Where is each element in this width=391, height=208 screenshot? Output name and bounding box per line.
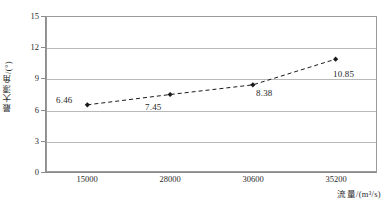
x-tick-label: 30600 — [242, 175, 263, 184]
point-value-label: 6.46 — [56, 96, 73, 105]
x-tick-label: 35200 — [325, 175, 346, 184]
y-tick-label: 6 — [35, 105, 39, 114]
y-tick-label: 3 — [35, 137, 39, 146]
series-line — [87, 59, 335, 105]
y-tick-mark — [41, 172, 45, 173]
x-axis-title: 流量/(m³/s) — [337, 190, 381, 199]
y-tick-label: 15 — [31, 12, 40, 21]
y-axis-tick-labels: 15 12 9 6 3 0 — [18, 0, 42, 172]
y-tick-mark — [41, 16, 45, 17]
y-tick-mark — [41, 47, 45, 48]
chart-container: 最大漂角/(°) 15 12 9 6 3 0 6.46 7.45 8.38 10… — [0, 0, 391, 208]
y-tick-mark — [41, 141, 45, 142]
y-tick-label: 12 — [31, 43, 40, 52]
x-tick-label: 28000 — [159, 175, 180, 184]
y-tick-mark — [41, 78, 45, 79]
point-value-label: 10.85 — [333, 70, 354, 79]
data-point-marker — [250, 82, 255, 87]
y-axis-title-text: 最大漂角/(°) — [4, 61, 13, 112]
data-point-marker — [168, 92, 173, 97]
data-point-marker — [85, 102, 90, 107]
x-axis-line — [46, 172, 377, 173]
data-point-marker — [333, 57, 338, 62]
series-markers — [85, 57, 338, 108]
point-value-label: 8.38 — [256, 89, 273, 98]
point-value-label: 7.45 — [145, 103, 162, 112]
y-tick-mark — [41, 110, 45, 111]
x-tick-label: 15000 — [76, 175, 97, 184]
data-series-layer — [46, 16, 377, 172]
y-axis-title: 最大漂角/(°) — [0, 0, 16, 172]
y-tick-label: 9 — [35, 74, 39, 83]
x-axis-tick-labels: 15000 28000 30600 35200 — [46, 175, 377, 189]
y-tick-label: 0 — [35, 168, 39, 177]
